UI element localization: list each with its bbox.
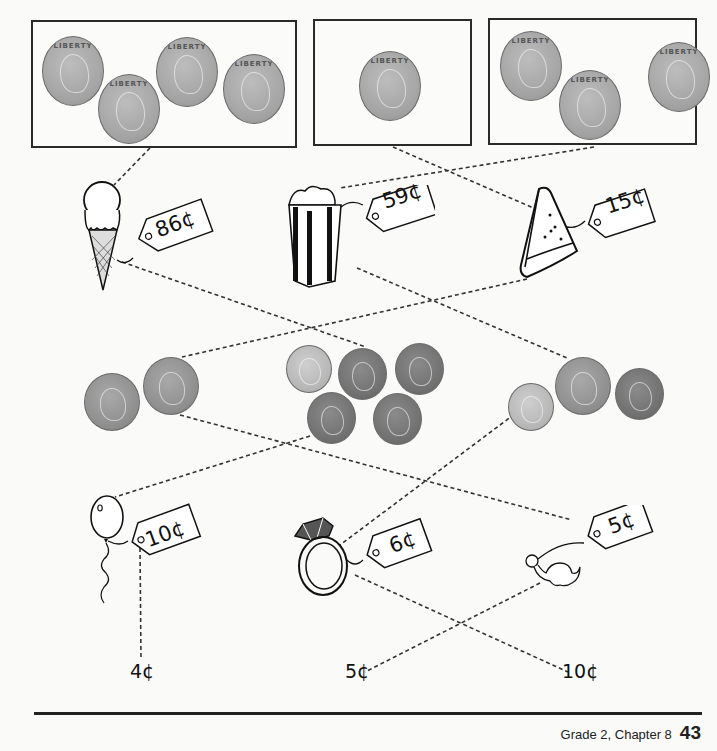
penny-coin: [307, 392, 356, 444]
ice-cream-cone-icon: [75, 180, 225, 295]
line-middle-balloon: [115, 436, 310, 497]
footer-rule: [34, 712, 702, 715]
ring-item: 6¢: [293, 510, 433, 614]
watermelon-item: 15¢: [515, 185, 665, 289]
coin-box-1: LIBERTY LIBERTY LIBERTY LIBERTY: [31, 20, 297, 148]
page-number: 43: [680, 722, 701, 743]
ring-icon: [293, 510, 433, 610]
answer-10-cents: 10¢: [562, 660, 598, 682]
penny-coin: [373, 393, 422, 445]
quarter-coin: LIBERTY: [648, 42, 710, 112]
quarter-coin: LIBERTY: [98, 74, 160, 144]
quarter-coin: LIBERTY: [223, 54, 285, 124]
line-box3-popcorn: [340, 147, 594, 188]
quarter-coin: LIBERTY: [42, 36, 104, 106]
footer-text: Grade 2, Chapter 8: [561, 727, 672, 742]
ice-cream-cone-item: 86¢: [75, 180, 225, 299]
page-footer: Grade 2, Chapter 843: [561, 722, 701, 744]
nickel-coin: [555, 357, 611, 415]
coin-group-left: [84, 356, 204, 436]
penny-coin: [395, 343, 444, 395]
dinosaur-item: 5¢: [520, 505, 670, 609]
quarter-coin: LIBERTY: [500, 31, 562, 101]
quarter-coin: LIBERTY: [359, 51, 421, 121]
answer-4-cents: 4¢: [130, 660, 154, 682]
coin-group-right: [508, 356, 688, 431]
nickel-coin: [143, 357, 199, 415]
popcorn-item: 59¢: [285, 185, 435, 299]
penny-coin: [338, 348, 387, 400]
penny-coin: [615, 368, 664, 420]
nickel-coin: [84, 373, 140, 431]
quarter-coin: LIBERTY: [559, 70, 621, 140]
answer-5-cents: 5¢: [345, 660, 369, 682]
quarter-coin: LIBERTY: [156, 37, 218, 107]
balloon-item: 10¢: [90, 495, 220, 619]
coin-group-middle: [285, 343, 445, 448]
dime-coin: [286, 345, 332, 393]
balloon-icon: [90, 495, 220, 615]
coin-box-2: LIBERTY: [313, 19, 472, 146]
coin-box-3: LIBERTY LIBERTY LIBERTY: [488, 18, 697, 145]
dime-coin: [508, 383, 554, 431]
toy-dinosaur-icon: [520, 505, 670, 605]
